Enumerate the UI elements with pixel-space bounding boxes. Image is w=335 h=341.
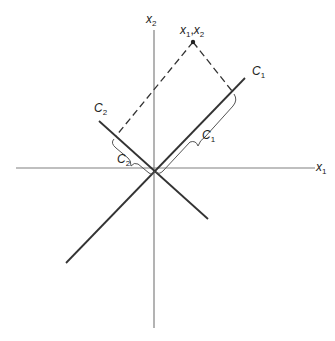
data-point <box>191 40 195 44</box>
c1-line <box>66 78 245 263</box>
c1-brace <box>156 94 236 173</box>
c2-projection-label: C2 <box>117 152 130 168</box>
point-label: x1,x2 <box>180 23 204 39</box>
c2-line-label: C2 <box>94 101 107 117</box>
projection-to-c1 <box>193 42 232 91</box>
c1-line-label: C1 <box>252 64 265 80</box>
c1-projection-label: C1 <box>202 128 215 144</box>
x1-axis-label: x1 <box>316 160 326 176</box>
x2-axis-label: x2 <box>146 12 156 28</box>
diagram-canvas <box>0 0 335 341</box>
